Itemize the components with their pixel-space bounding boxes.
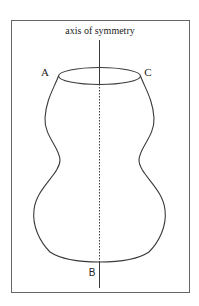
axis-label: axis of symmetry xyxy=(65,25,134,36)
frame-border xyxy=(12,21,190,293)
point-label-c: C xyxy=(144,66,151,78)
point-label-b: B xyxy=(89,267,96,278)
point-label-a: A xyxy=(41,66,49,78)
vase-symmetry-diagram: axis of symmetry A C B xyxy=(0,0,199,306)
